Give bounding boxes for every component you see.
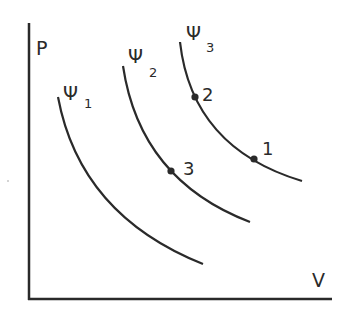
speck (7, 180, 8, 181)
x-axis-label: V (312, 269, 325, 291)
curve-psi-3-symbol: Ψ (186, 22, 201, 44)
point-1-label: 1 (262, 138, 273, 159)
curve-psi-2-symbol: Ψ (128, 45, 143, 67)
point-3-marker (167, 167, 174, 174)
curve-psi-3 (180, 42, 302, 181)
curve-psi-1-symbol: Ψ (63, 82, 78, 104)
pv-diagram: P V Ψ 1 Ψ 2 Ψ 3 2 3 1 (0, 0, 347, 323)
curve-psi-1-subscript: 1 (84, 96, 92, 111)
y-axis-label: P (36, 37, 47, 59)
curve-psi-3-subscript: 3 (206, 40, 214, 55)
point-1-marker (250, 155, 257, 162)
point-2-label: 2 (202, 84, 213, 105)
point-2-marker (191, 93, 198, 100)
point-3-label: 3 (183, 158, 194, 179)
curve-psi-2-subscript: 2 (149, 65, 157, 80)
